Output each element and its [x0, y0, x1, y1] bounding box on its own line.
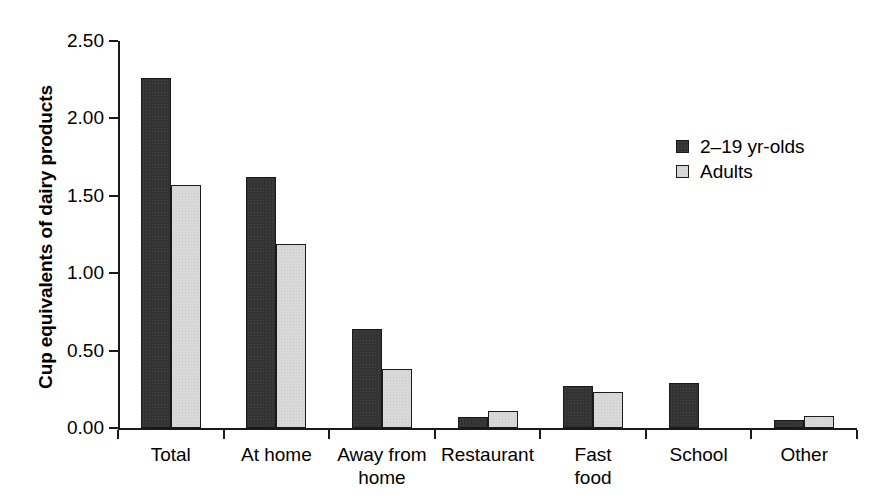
y-tick-label-text: 2.50 — [4, 31, 104, 50]
x-tick-label: At home — [216, 443, 338, 466]
x-tick-label: Away from home — [321, 443, 443, 489]
legend-label: Adults — [700, 162, 753, 181]
y-tick-label: 0.00 — [0, 418, 104, 438]
y-tick-mark — [109, 427, 118, 429]
x-tick-mark — [645, 430, 647, 439]
x-tick-label: Fast food — [532, 443, 654, 489]
legend-swatch-icon — [676, 140, 689, 153]
y-tick-mark — [109, 195, 118, 197]
y-axis-title: Cup equivalents of dairy products — [31, 22, 61, 452]
bar — [774, 420, 804, 428]
bar — [669, 383, 699, 428]
x-tick-mark — [539, 430, 541, 439]
y-axis-line — [118, 41, 120, 430]
bar — [563, 386, 593, 428]
y-tick-label: 0.50 — [0, 341, 104, 361]
bar — [352, 329, 382, 428]
y-tick-label: 2.00 — [0, 108, 104, 128]
y-tick-label-text: 0.50 — [4, 341, 104, 360]
y-tick-mark — [109, 272, 118, 274]
bar — [276, 244, 306, 428]
y-tick-label-text: 1.50 — [4, 186, 104, 205]
y-tick-label: 1.00 — [0, 263, 104, 283]
y-tick-label-text: 0.00 — [4, 418, 104, 437]
legend-item: Adults — [676, 159, 805, 184]
legend-item: 2–19 yr-olds — [676, 134, 805, 159]
x-tick-mark — [856, 430, 858, 439]
bar-chart-figure: Cup equivalents of dairy products 0.000.… — [0, 0, 874, 502]
y-tick-label-text: 2.00 — [4, 108, 104, 127]
bar — [804, 416, 834, 428]
chart-legend: 2–19 yr-oldsAdults — [676, 134, 805, 184]
x-tick-mark — [750, 430, 752, 439]
y-tick-label: 2.50 — [0, 31, 104, 51]
bar — [246, 177, 276, 428]
y-tick-mark — [109, 350, 118, 352]
bar — [488, 411, 518, 428]
x-tick-mark — [117, 430, 119, 439]
x-tick-label: Restaurant — [427, 443, 549, 466]
x-tick-mark — [223, 430, 225, 439]
x-tick-label: Other — [743, 443, 865, 466]
bar — [458, 417, 488, 428]
x-tick-label: Total — [110, 443, 232, 466]
x-tick-mark — [434, 430, 436, 439]
bar — [593, 392, 623, 428]
x-axis-line — [118, 428, 857, 430]
bar — [382, 369, 412, 428]
x-tick-label: School — [638, 443, 760, 466]
x-tick-mark — [328, 430, 330, 439]
legend-swatch-icon — [676, 165, 689, 178]
y-tick-mark — [109, 40, 118, 42]
bar — [171, 185, 201, 428]
y-tick-label-text: 1.00 — [4, 263, 104, 282]
legend-label: 2–19 yr-olds — [700, 137, 805, 156]
y-tick-label: 1.50 — [0, 186, 104, 206]
y-tick-mark — [109, 117, 118, 119]
bar — [141, 78, 171, 428]
